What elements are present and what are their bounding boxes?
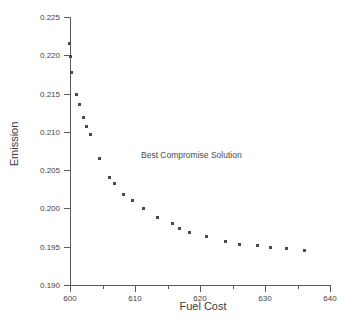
data-point-marker [75, 93, 78, 96]
data-point-marker [142, 207, 145, 210]
y-tick-label: 0.225 [40, 13, 61, 22]
data-point-marker [85, 125, 88, 128]
data-point-marker [89, 133, 92, 136]
y-axis-title: Emission [8, 104, 20, 184]
data-point-marker [285, 247, 288, 250]
data-point-marker [131, 199, 134, 202]
data-point-marker [224, 240, 227, 243]
data-point-marker [256, 244, 259, 247]
data-point-marker [171, 222, 174, 225]
data-point-marker [122, 193, 125, 196]
y-axis-title-text: Emission [8, 122, 20, 167]
y-tick-label: 0.215 [40, 90, 61, 99]
data-point-marker [269, 246, 272, 249]
y-tick-label: 0.195 [40, 243, 61, 252]
data-point-marker [238, 243, 241, 246]
scatter-plot-svg: 0.1900.1950.2000.2050.2100.2150.2200.225… [0, 0, 346, 322]
best-compromise-annotation: Best Compromise Solution [141, 150, 242, 160]
data-point-marker [69, 55, 72, 58]
data-point-marker [68, 42, 71, 45]
data-markers-group [68, 42, 306, 252]
data-point-marker [156, 216, 159, 219]
data-point-marker [98, 157, 101, 160]
x-axis-title-text: Fuel Cost [119, 300, 226, 312]
chart-figure: 0.1900.1950.2000.2050.2100.2150.2200.225… [0, 0, 346, 322]
y-tick-label: 0.190 [40, 281, 61, 290]
x-axis-title: Fuel Cost [0, 300, 346, 312]
data-point-marker [205, 235, 208, 238]
data-point-marker [188, 231, 191, 234]
data-point-marker [70, 71, 73, 74]
y-tick-label: 0.210 [40, 128, 61, 137]
data-point-marker [113, 182, 116, 185]
data-point-marker [82, 116, 85, 119]
data-point-marker [108, 176, 111, 179]
y-tick-label: 0.220 [40, 51, 61, 60]
y-ticks-group: 0.1900.1950.2000.2050.2100.2150.2200.225 [40, 13, 70, 290]
data-point-marker [178, 227, 181, 230]
data-point-marker [303, 249, 306, 252]
data-point-marker [78, 103, 81, 106]
y-tick-label: 0.205 [40, 166, 61, 175]
y-tick-label: 0.200 [40, 204, 61, 213]
